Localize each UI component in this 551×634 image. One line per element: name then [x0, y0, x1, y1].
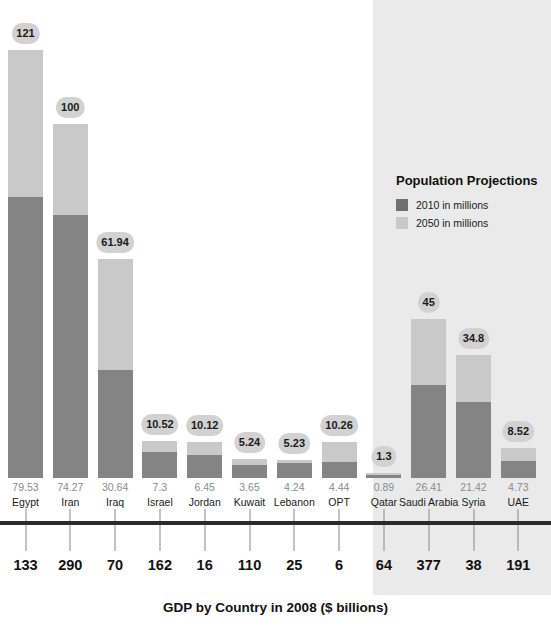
- legend-item-2050: 2050 in millions: [396, 217, 538, 229]
- tick-mark-lower: [115, 525, 116, 551]
- bar-value-bubble: 5.23: [279, 433, 310, 454]
- bar-jordan: [187, 442, 222, 478]
- gdp-value: 16: [197, 557, 213, 573]
- axis-title: GDP by Country in 2008 ($ billions): [0, 600, 551, 615]
- category-label: OPT: [328, 496, 350, 508]
- legend-swatch-2010: [396, 199, 408, 211]
- category-label: Jordan: [189, 496, 221, 508]
- gdp-value: 377: [417, 557, 441, 573]
- category-label: Iraq: [106, 496, 124, 508]
- bar-value-bubble: 34.8: [458, 328, 489, 349]
- bar-label-pop2010: 7.3: [153, 481, 168, 493]
- bar-label-pop2010: 4.44: [329, 481, 349, 493]
- bar-segment-2010: [277, 463, 312, 478]
- bar-segment-2010: [53, 215, 88, 478]
- bar-lebanon: [277, 460, 312, 478]
- bar-segment-2050: [456, 355, 491, 402]
- bar-segment-2010: [8, 197, 43, 478]
- bar-segment-2050: [53, 124, 88, 215]
- bar-segment-2050: [98, 259, 133, 370]
- population-gdp-chart: 12179.53Egypt13310074.27Iran29061.9430.6…: [0, 0, 551, 634]
- gdp-value: 290: [58, 557, 82, 573]
- bar-kuwait: [232, 459, 267, 478]
- bar-segment-2050: [501, 448, 536, 461]
- tick-mark-lower: [70, 525, 71, 551]
- gdp-value: 70: [107, 557, 123, 573]
- category-label: Egypt: [12, 496, 39, 508]
- bar-label-pop2010: 3.65: [239, 481, 259, 493]
- plot-area: 12179.53Egypt13310074.27Iran29061.9430.6…: [0, 0, 551, 634]
- bar-value-bubble: 8.52: [503, 421, 534, 442]
- gdp-value: 133: [13, 557, 37, 573]
- bar-segment-2010: [322, 462, 357, 478]
- gdp-value: 25: [286, 557, 302, 573]
- legend-label-2050: 2050 in millions: [416, 217, 488, 229]
- bar-label-pop2010: 21.42: [460, 481, 486, 493]
- bar-iraq: [98, 259, 133, 478]
- bar-iran: [53, 124, 88, 478]
- tick-mark-lower: [518, 525, 519, 551]
- bar-segment-2010: [142, 452, 177, 478]
- tick-mark-lower: [428, 525, 429, 551]
- legend-swatch-2050: [396, 217, 408, 229]
- tick-mark-lower: [383, 525, 384, 551]
- bar-segment-2010: [411, 385, 446, 478]
- bar-segment-2050: [411, 319, 446, 385]
- tick-mark-lower: [339, 525, 340, 551]
- legend-label-2010: 2010 in millions: [416, 199, 488, 211]
- bar-segment-2010: [232, 465, 267, 478]
- tick-mark-lower: [294, 525, 295, 551]
- category-label: Israel: [147, 496, 173, 508]
- bar-segment-2050: [322, 442, 357, 463]
- bar-opt: [322, 442, 357, 478]
- tick-mark-lower: [249, 525, 250, 551]
- legend-item-2010: 2010 in millions: [396, 199, 538, 211]
- bar-segment-2010: [366, 475, 401, 478]
- bar-value-bubble: 100: [56, 97, 84, 118]
- bar-segment-2050: [8, 50, 43, 197]
- bar-label-pop2010: 30.64: [102, 481, 128, 493]
- bar-value-bubble: 10.52: [141, 414, 179, 435]
- category-label: Iran: [61, 496, 79, 508]
- bar-label-pop2010: 0.89: [374, 481, 394, 493]
- gdp-value: 38: [465, 557, 481, 573]
- legend-title: Population Projections: [396, 173, 538, 188]
- bar-label-pop2010: 4.24: [284, 481, 304, 493]
- bar-egypt: [8, 50, 43, 478]
- bar-segment-2010: [187, 455, 222, 478]
- category-label: UAE: [508, 496, 530, 508]
- bar-value-bubble: 1.3: [371, 446, 396, 467]
- gdp-value: 110: [238, 557, 261, 573]
- tick-mark-lower: [473, 525, 474, 551]
- bar-value-bubble: 10.26: [320, 415, 358, 436]
- bar-segment-2010: [456, 402, 491, 478]
- bar-label-pop2010: 6.45: [194, 481, 214, 493]
- bar-saudi-arabia: [411, 319, 446, 478]
- gdp-value: 162: [148, 557, 172, 573]
- bar-segment-2050: [142, 441, 177, 452]
- bar-label-pop2010: 74.27: [57, 481, 83, 493]
- tick-mark-lower: [25, 525, 26, 551]
- tick-mark-lower: [159, 525, 160, 551]
- bar-label-pop2010: 26.41: [416, 481, 442, 493]
- bar-value-bubble: 45: [418, 292, 440, 313]
- bar-syria: [456, 355, 491, 478]
- bar-qatar: [366, 473, 401, 478]
- category-label: Qatar: [371, 496, 397, 508]
- bar-uae: [501, 448, 536, 478]
- bar-value-bubble: 5.24: [234, 432, 265, 453]
- axis-line: [0, 521, 551, 525]
- bar-segment-2010: [98, 370, 133, 478]
- tick-mark-lower: [204, 525, 205, 551]
- bar-label-pop2010: 79.53: [12, 481, 38, 493]
- gdp-value: 64: [376, 557, 392, 573]
- bar-value-bubble: 61.94: [96, 232, 134, 253]
- bar-israel: [142, 441, 177, 478]
- bar-value-bubble: 10.12: [186, 415, 224, 436]
- category-label: Kuwait: [234, 496, 266, 508]
- bar-value-bubble: 121: [11, 23, 39, 44]
- category-label: Syria: [462, 496, 486, 508]
- gdp-value: 6: [335, 557, 343, 573]
- legend: Population Projections 2010 in millions …: [396, 173, 538, 235]
- bar-segment-2050: [187, 442, 222, 455]
